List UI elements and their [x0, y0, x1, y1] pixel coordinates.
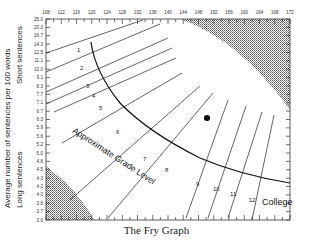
grade-label-2: 2 [80, 65, 84, 71]
grade-label-8: 8 [165, 167, 169, 173]
y-tick-label: 4.8 [37, 159, 44, 164]
x-tick-label: 120 [88, 10, 96, 15]
y-axis-subtitle-long: Long sentences [15, 152, 24, 209]
y-axis-title: Average number of sentences per 100 word… [3, 48, 12, 208]
y-tick-label: 3.7 [37, 209, 44, 214]
y-tick-label: 3.6 [37, 218, 44, 223]
y-tick-label: 4.2 [37, 184, 44, 189]
y-tick-label: 8.3 [37, 84, 44, 89]
y-tick-label: 5.0 [37, 151, 44, 156]
x-axis-tick-labels: 1081121161201241281321361401441481521561… [42, 10, 294, 15]
grade-label-12: 12 [249, 197, 256, 203]
x-tick-label: 116 [73, 10, 81, 15]
y-tick-label: 4.5 [37, 167, 44, 172]
grade-label-10: 10 [213, 186, 220, 192]
grade-label-9: 9 [196, 181, 200, 187]
x-tick-label: 124 [103, 10, 111, 15]
y-tick-label: 9.1 [37, 75, 44, 80]
y-tick-label: 5.9 [37, 125, 44, 130]
x-tick-label: 164 [256, 10, 264, 15]
x-tick-label: 156 [225, 10, 233, 15]
y-tick-label: 6.7 [37, 109, 44, 114]
x-tick-label: 140 [164, 10, 172, 15]
y-tick-label: 7.1 [37, 100, 44, 105]
x-tick-label: 128 [118, 10, 126, 15]
x-tick-label: 144 [179, 10, 187, 15]
y-tick-label: 16.7 [34, 33, 43, 38]
x-tick-label: 132 [134, 10, 142, 15]
y-tick-label: 4.0 [37, 192, 44, 197]
grade-label-6: 6 [116, 129, 120, 135]
invalid-region-upper-right [180, 19, 290, 110]
grade-label-3: 3 [86, 83, 90, 89]
x-tick-label: 152 [210, 10, 218, 15]
x-tick-label: 172 [286, 10, 294, 15]
grade-label-7: 7 [143, 156, 147, 162]
plotted-point [204, 115, 210, 121]
y-tick-label: 10.0 [34, 67, 43, 72]
y-tick-label: 12.5 [34, 50, 43, 55]
y-tick-label: 3.8 [37, 201, 44, 206]
figure-caption: The Fry Graph [0, 224, 313, 236]
y-tick-label: 5.2 [37, 142, 44, 147]
y-tick-label: 6.3 [37, 117, 44, 122]
x-tick-label: 112 [58, 10, 66, 15]
y-tick-label: 7.7 [37, 92, 44, 97]
x-tick-label: 168 [271, 10, 279, 15]
grade-label-1: 1 [77, 47, 81, 53]
y-tick-label: 20.0 [34, 25, 43, 30]
y-tick-label: 5.6 [37, 134, 44, 139]
y-tick-label: 14.3 [34, 42, 43, 47]
grade-label-11: 11 [230, 191, 237, 197]
grade-label-college: College [262, 197, 293, 207]
x-tick-label: 136 [149, 10, 157, 15]
y-tick-label: 11.1 [34, 58, 43, 63]
y-axis-tick-labels: 25.020.016.714.312.511.110.09.18.37.77.1… [34, 17, 43, 223]
x-tick-label: 148 [195, 10, 203, 15]
x-tick-label: 160 [240, 10, 248, 15]
x-tick-label: 108 [42, 10, 50, 15]
y-axis-subtitle-short: Short sentences [15, 26, 24, 84]
invalid-region-lower-left [46, 166, 94, 220]
grade-label-5: 5 [99, 105, 103, 111]
fry-graph: 1081121161201241281321361401441481521561… [0, 0, 313, 242]
y-tick-label: 4.3 [37, 176, 44, 181]
y-tick-label: 25.0 [34, 17, 43, 22]
